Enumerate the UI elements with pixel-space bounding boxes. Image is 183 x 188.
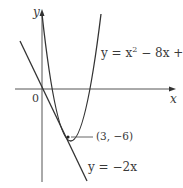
parabola-curve [42, 14, 101, 141]
tangent-point [66, 135, 69, 138]
parabola-equation-prefix: y = x [101, 46, 132, 60]
y-axis-label: y [33, 6, 40, 18]
tangent-point-label: (3, −6) [96, 131, 133, 142]
parabola-equation-label: y = x2 − 8x + 9 [101, 46, 183, 59]
tangent-line-diagram: y x 0 y = x2 − 8x + 9 y = −2x (3, −6) [0, 0, 183, 188]
tangent-line-equation-label: y = −2x [88, 161, 137, 173]
tangent-line [20, 41, 87, 181]
parabola-equation-suffix: − 8x + 9 [137, 46, 183, 60]
x-axis-label: x [170, 93, 177, 105]
x-axis-arrow-icon [169, 87, 176, 92]
origin-label: 0 [32, 93, 39, 104]
